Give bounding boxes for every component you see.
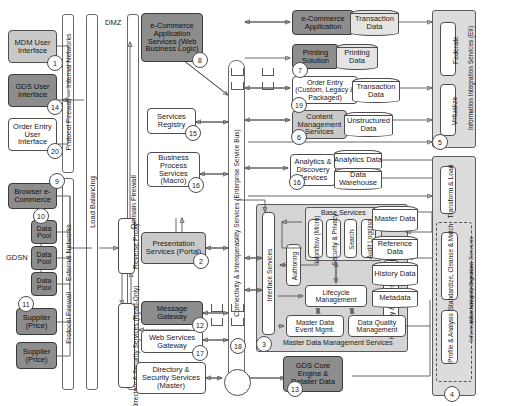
node-data-pool-3[interactable]: Data Pool	[31, 272, 57, 296]
badge-2: 2	[193, 253, 209, 269]
architecture-diagram: MDM User Interface 1 GDS User Interface …	[0, 0, 516, 406]
node-lifecycle-management[interactable]: Lifecycle Management	[305, 285, 367, 307]
badge-16-ads: 16	[289, 174, 305, 190]
badge-9: 9	[49, 173, 65, 189]
store-metadata: Metadata	[372, 288, 418, 308]
badge-16-bps: 16	[188, 177, 204, 193]
bar-domain-firewall-label: Domain Firewall	[127, 167, 139, 237]
gateway-connector-glyph-2	[211, 318, 223, 326]
esb-connector-glyph-3	[231, 304, 244, 312]
node-data-pool-1[interactable]: Data Pool	[31, 220, 57, 244]
federate-label: Federate	[450, 23, 462, 77]
store-data-warehouse: Data Warehouse	[334, 168, 382, 190]
node-supplier-price-2[interactable]: Supplier (Price)	[16, 342, 57, 369]
mdm-services-caption: Master Data Management Services	[283, 339, 393, 346]
node-profile-analysis[interactable]: Profile & Analysis	[441, 310, 458, 364]
virtualize-label: Virtualize	[449, 84, 461, 138]
store-history-data: History Data	[372, 262, 418, 286]
node-data-pool-2[interactable]: Data Pool	[31, 246, 57, 270]
store-transaction-data-2: Transaction Data	[352, 78, 400, 103]
store-reference-data: Reference Data	[372, 236, 418, 260]
authoring-label: Authoring	[289, 244, 301, 288]
esb-endpoint-circle	[224, 369, 251, 396]
badge-4: 4	[444, 386, 460, 402]
esb-connector-glyph-1	[231, 68, 244, 76]
base-services-title: Base Services	[321, 209, 366, 216]
store-master-data: Master Data	[372, 206, 418, 232]
node-standardize-cleanse-match[interactable]: Standardize, Cleanse & Match	[441, 232, 458, 300]
store-transaction-data-1: Transaction Data	[350, 10, 399, 36]
search-label: Search	[346, 220, 359, 260]
bar-protocol-firewall-external-label: Protocol Firewall — External Networks	[62, 183, 74, 385]
node-supplier-price-1[interactable]: Supplier (Price)	[16, 308, 57, 335]
standardize-cleanse-match-label: Standardize, Cleanse & Match	[444, 239, 458, 296]
badge-5: 5	[432, 134, 448, 150]
badge-17: 17	[192, 345, 208, 361]
badge-15: 15	[185, 125, 201, 141]
badge-6: 6	[291, 129, 307, 145]
badge-10: 10	[33, 208, 49, 224]
panel-iis-label: Information Integration Services	[464, 207, 476, 353]
store-analytics-data: Analytics Data	[334, 150, 382, 170]
node-federate[interactable]: Federate	[440, 22, 456, 76]
badge-12: 12	[192, 317, 208, 333]
bar-esb-label: Connectivity & Interoperability Services…	[230, 127, 244, 320]
badge-13: 13	[287, 381, 303, 397]
badge-14: 14	[47, 99, 63, 115]
node-directory-security-services-master[interactable]: Directory & Security Services (Master)	[136, 362, 206, 394]
node-data-quality-management[interactable]: Data Quality Management	[348, 315, 406, 337]
store-printing-data: Printing Data	[336, 44, 378, 70]
badge-8: 8	[192, 52, 208, 68]
badge-18: 18	[230, 338, 246, 354]
transform-load-label: Transform & Load	[444, 168, 457, 216]
badge-19: 19	[291, 97, 307, 113]
badge-7: 7	[292, 62, 308, 78]
badge-1: 1	[47, 55, 63, 71]
workflow-micro-label: Workflow (Micro)	[311, 220, 324, 260]
node-transform-load[interactable]: Transform & Load	[440, 166, 456, 214]
appcol-connector-glyph-2	[262, 82, 274, 90]
node-search[interactable]: Search	[344, 219, 357, 258]
esb-connector-glyph-4	[231, 318, 244, 326]
badge-3: 3	[256, 336, 272, 352]
node-virtualize[interactable]: Virtualize	[440, 84, 456, 136]
node-workflow-micro[interactable]: Workflow (Micro)	[308, 219, 323, 258]
label-gdsn: GDSN	[6, 253, 28, 262]
security-privacy-label: Security & Privacy	[329, 220, 342, 260]
node-directory-security-read-only[interactable]: Directory & Security Services (Read-Only…	[118, 303, 135, 388]
appcol-connector-glyph-1	[262, 68, 274, 76]
node-master-data-event-mgmt[interactable]: Master Data Event Mgmt.	[286, 315, 344, 337]
esb-connector-glyph-2	[231, 82, 244, 90]
node-browser-e-commerce[interactable]: Browser e-Commerce	[8, 183, 57, 209]
node-authoring[interactable]: Authoring	[286, 244, 301, 286]
node-security-privacy[interactable]: Security & Privacy	[326, 219, 341, 258]
bar-protocol-firewall-internal-label: Protocol Firewall — Internal Networks	[62, 16, 74, 168]
node-interface-services[interactable]: Interface Services	[262, 212, 275, 335]
gateway-connector-glyph-1	[211, 304, 223, 312]
interface-services-label: Interface Services	[264, 219, 276, 331]
bar-load-balancing-label: Load Balancing	[86, 165, 98, 239]
label-dmz: DMZ	[105, 18, 121, 27]
node-e-commerce-application[interactable]: e-Commerce Application	[292, 10, 354, 35]
badge-20: 20	[47, 143, 63, 159]
store-unstructured-data: Unstructured Data	[344, 112, 393, 137]
badge-11: 11	[18, 296, 34, 312]
panel-eii-label: Information Integration Services (EII)	[464, 8, 476, 148]
profile-analysis-label: Profile & Analysis	[444, 315, 458, 361]
